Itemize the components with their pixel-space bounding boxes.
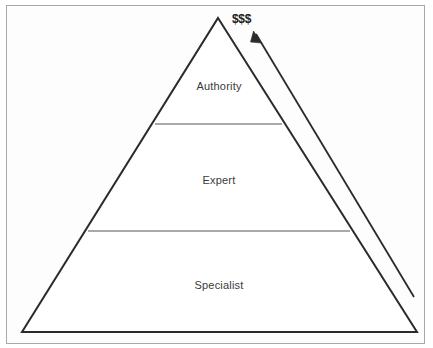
- tier-label-expert: Expert: [203, 174, 236, 186]
- arrow-up-left-icon: [251, 31, 262, 43]
- tier-label-specialist: Specialist: [194, 279, 243, 291]
- diagram-canvas: Authority Expert Specialist $$$: [0, 0, 433, 348]
- money-annotation-label: $$$: [232, 12, 251, 26]
- tier-label-authority: Authority: [196, 80, 241, 92]
